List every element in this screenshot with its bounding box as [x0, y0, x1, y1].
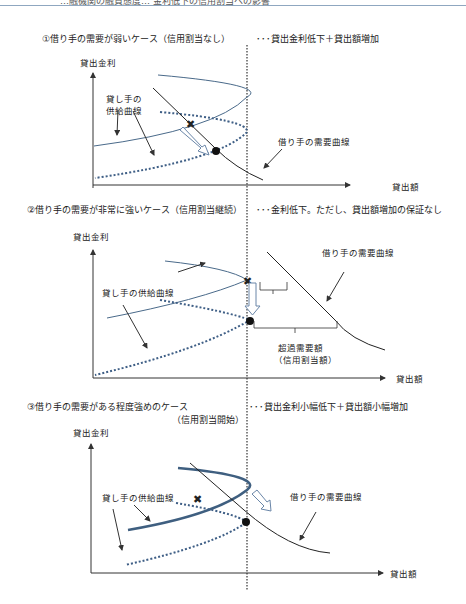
shift-arrow-1 [180, 127, 209, 155]
new-equilibrium-marker-2 [246, 317, 254, 325]
excess-demand-bracket [254, 321, 337, 333]
panel-3-supply-label: 貸し手の供給曲線 [102, 491, 174, 503]
panel-3-result: ･･･貸出金利小幅低下＋貸出額小幅増加 [249, 400, 408, 413]
credit-rationing-diagram: ✖ ✖ ✖ [0, 0, 466, 604]
panel-2-x-axis-label: 貸出額 [396, 372, 423, 384]
panel-1-supply-label: 貸し手の [106, 92, 142, 104]
panel-2-chart: ✖ [93, 250, 385, 378]
demand-curve-2 [267, 252, 385, 350]
panel-2-y-axis-label: 貸出金利 [73, 230, 109, 242]
panel-2-supply-label: 貸し手の供給曲線 [102, 286, 174, 298]
panel-1-supply-label-2: 供給曲線 [106, 104, 142, 116]
panel-2-demand-label: 借り手の需要曲線 [322, 246, 394, 258]
panel-3-chart: ✖ [91, 444, 383, 573]
panel-1-chart: ✖ [93, 73, 350, 188]
shift-arrow-3 [252, 490, 271, 511]
panel-2-excess-demand-label: 超過需要額 [278, 341, 323, 353]
supply-curve-shifted-3 [125, 503, 247, 565]
panel-3-demand-label: 借り手の需要曲線 [290, 490, 362, 502]
panel-2-title: ②借り手の需要が非常に強いケース（信用割当継続） [27, 203, 242, 216]
new-equilibrium-marker-1 [212, 147, 220, 155]
panel-3-y-axis-label: 貸出金利 [73, 426, 109, 438]
small-bracket [260, 282, 287, 294]
new-equilibrium-marker-3 [242, 518, 250, 526]
panel-1-demand-label: 借り手の需要曲線 [278, 135, 350, 147]
panel-3-x-axis-label: 貸出額 [390, 567, 417, 579]
old-equilibrium-marker-3: ✖ [193, 493, 202, 506]
panel-3-title-line2: （信用割当開始） [172, 413, 244, 426]
panel-3-title: ③借り手の需要がある程度強めのケース [27, 400, 188, 413]
panel-1-x-axis-label: 貸出額 [392, 180, 419, 192]
old-equilibrium-marker-1: ✖ [186, 118, 195, 131]
panel-2-credit-rationing-label: （信用割当額） [274, 353, 337, 365]
panel-2-result: ･･･金利低下。ただし、貸出額増加の保証なし [256, 203, 442, 216]
panel-1-title: ①借り手の需要が弱いケース（信用割当なし） [42, 32, 230, 45]
supply-curve-shifted-2 [95, 300, 250, 375]
panel-1-y-axis-label: 貸出金利 [80, 56, 116, 68]
panel-1-result: ･･･貸出金利低下＋貸出額増加 [256, 32, 379, 45]
